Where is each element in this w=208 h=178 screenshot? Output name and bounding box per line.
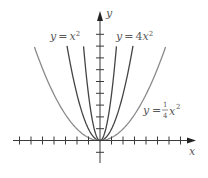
x-axis-label: x bbox=[189, 145, 196, 158]
axes bbox=[13, 11, 196, 163]
y-axis-label: y bbox=[105, 7, 113, 20]
svg-text:=: = bbox=[152, 104, 161, 117]
svg-text:2: 2 bbox=[176, 103, 180, 111]
label-x-squared: y=x2 bbox=[49, 30, 80, 43]
y-axis-arrow-icon bbox=[97, 11, 103, 21]
svg-text:4: 4 bbox=[163, 112, 168, 120]
x-axis-arrow-icon bbox=[187, 138, 196, 144]
label-quarter-x-squared: y = 1 4 x 2 bbox=[142, 101, 180, 120]
svg-text:y: y bbox=[142, 104, 150, 117]
svg-text:x: x bbox=[169, 105, 176, 118]
label-4x-squared: y=4x2 bbox=[115, 30, 153, 43]
svg-text:1: 1 bbox=[163, 101, 167, 109]
parabola-family-plot: x y y=x2 y=4x2 y = 1 4 x 2 bbox=[0, 0, 208, 178]
